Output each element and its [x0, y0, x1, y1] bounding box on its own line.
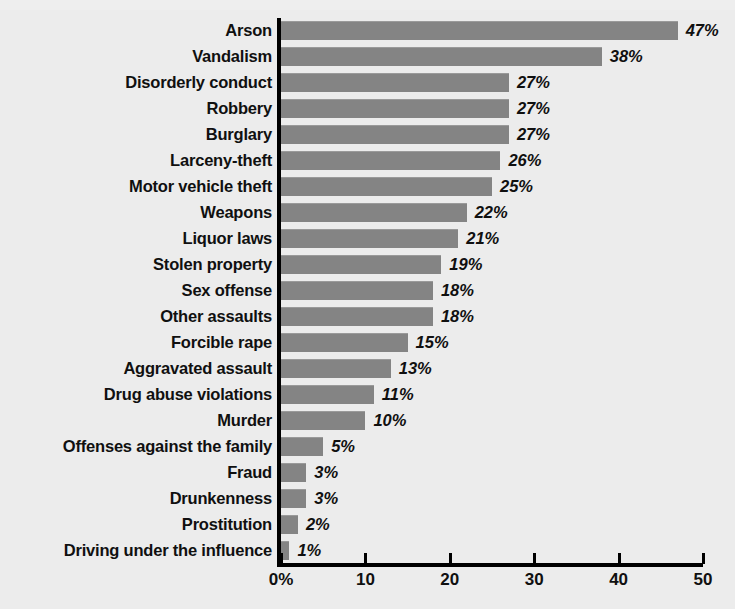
- category-label: Aggravated assault: [0, 356, 272, 382]
- bar-row: Larceny-theft26%: [0, 148, 735, 174]
- value-label: 47%: [686, 19, 719, 43]
- x-tick-mark: [364, 553, 367, 564]
- category-label: Liquor laws: [0, 226, 272, 252]
- category-label: Forcible rape: [0, 330, 272, 356]
- chart-title: [0, 0, 735, 10]
- category-label: Weapons: [0, 200, 272, 226]
- x-tick-label: 50: [663, 570, 735, 590]
- bar: [281, 99, 509, 118]
- value-label: 27%: [517, 71, 550, 95]
- category-label: Vandalism: [0, 44, 272, 70]
- category-label: Fraud: [0, 460, 272, 486]
- category-label: Murder: [0, 408, 272, 434]
- x-tick-mark: [449, 553, 452, 564]
- x-tick-mark: [533, 553, 536, 564]
- bar-row: Robbery27%: [0, 96, 735, 122]
- bar-row: Fraud3%: [0, 460, 735, 486]
- bar: [281, 463, 306, 482]
- value-label: 3%: [314, 487, 338, 511]
- x-tick-label: 30: [494, 570, 574, 590]
- bar: [281, 281, 433, 300]
- bar-row: Disorderly conduct27%: [0, 70, 735, 96]
- bar-row: Drug abuse violations11%: [0, 382, 735, 408]
- bar: [281, 203, 467, 222]
- value-label: 13%: [399, 357, 432, 381]
- value-label: 27%: [517, 97, 550, 121]
- category-label: Offenses against the family: [0, 434, 272, 460]
- category-label: Prostitution: [0, 512, 272, 538]
- category-label: Driving under the influence: [0, 538, 272, 564]
- x-tick-mark: [618, 553, 621, 564]
- bar: [281, 151, 500, 170]
- bar-row: Forcible rape15%: [0, 330, 735, 356]
- value-label: 2%: [306, 513, 330, 537]
- bar: [281, 229, 458, 248]
- value-label: 3%: [314, 461, 338, 485]
- bar-chart: Arson47%Vandalism38%Disorderly conduct27…: [0, 0, 735, 609]
- bar-row: Stolen property19%: [0, 252, 735, 278]
- bar-row: Other assaults18%: [0, 304, 735, 330]
- category-label: Other assaults: [0, 304, 272, 330]
- x-axis-line: [277, 563, 703, 567]
- bar: [281, 255, 441, 274]
- bar: [281, 21, 678, 40]
- bar-row: Offenses against the family5%: [0, 434, 735, 460]
- value-label: 11%: [382, 383, 414, 407]
- value-label: 18%: [441, 305, 474, 329]
- value-label: 27%: [517, 123, 550, 147]
- bar-row: Prostitution2%: [0, 512, 735, 538]
- bar-row: Drunkenness3%: [0, 486, 735, 512]
- x-tick-label: 20: [410, 570, 490, 590]
- bar-row: Weapons22%: [0, 200, 735, 226]
- value-label: 21%: [466, 227, 499, 251]
- value-label: 18%: [441, 279, 474, 303]
- bar-row: Motor vehicle theft25%: [0, 174, 735, 200]
- x-tick-label: 40: [579, 570, 659, 590]
- bar: [281, 385, 374, 404]
- bar: [281, 489, 306, 508]
- category-label: Sex offense: [0, 278, 272, 304]
- x-tick-label: 10: [325, 570, 405, 590]
- bar: [281, 307, 433, 326]
- bar-row: Vandalism38%: [0, 44, 735, 70]
- category-label: Motor vehicle theft: [0, 174, 272, 200]
- category-label: Drug abuse violations: [0, 382, 272, 408]
- bar: [281, 411, 365, 430]
- bar-row: Burglary27%: [0, 122, 735, 148]
- value-label: 10%: [373, 409, 406, 433]
- category-label: Arson: [0, 18, 272, 44]
- bar: [281, 333, 408, 352]
- category-label: Drunkenness: [0, 486, 272, 512]
- bar: [281, 437, 323, 456]
- value-label: 25%: [500, 175, 533, 199]
- bar: [281, 47, 602, 66]
- bar: [281, 73, 509, 92]
- bar-row: Sex offense18%: [0, 278, 735, 304]
- plot-area: Arson47%Vandalism38%Disorderly conduct27…: [0, 18, 735, 563]
- bar: [281, 177, 492, 196]
- category-label: Stolen property: [0, 252, 272, 278]
- category-label: Larceny-theft: [0, 148, 272, 174]
- value-label: 22%: [475, 201, 508, 225]
- bar: [281, 359, 391, 378]
- value-label: 38%: [610, 45, 643, 69]
- bar-row: Arson47%: [0, 18, 735, 44]
- y-axis-line: [277, 18, 281, 567]
- bar-row: Liquor laws21%: [0, 226, 735, 252]
- value-label: 15%: [416, 331, 449, 355]
- bar: [281, 125, 509, 144]
- value-label: 5%: [331, 435, 355, 459]
- category-label: Burglary: [0, 122, 272, 148]
- x-tick-mark: [280, 553, 283, 564]
- value-label: 1%: [297, 539, 321, 563]
- category-label: Disorderly conduct: [0, 70, 272, 96]
- category-label: Robbery: [0, 96, 272, 122]
- bar-row: Murder10%: [0, 408, 735, 434]
- bar: [281, 515, 298, 534]
- x-tick-label: 0%: [241, 570, 321, 590]
- x-tick-mark: [702, 553, 705, 564]
- value-label: 26%: [508, 149, 541, 173]
- bar-row: Aggravated assault13%: [0, 356, 735, 382]
- value-label: 19%: [449, 253, 482, 277]
- bar-row: Driving under the influence1%: [0, 538, 735, 564]
